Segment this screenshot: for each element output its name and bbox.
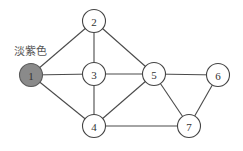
node-label: 5 [151,69,157,81]
edge-1-4 [31,75,94,126]
node-label: 1 [28,70,34,82]
node-2: 2 [83,10,106,33]
node-4: 4 [83,115,106,138]
node-label: 2 [91,16,97,28]
edges [31,21,218,126]
node-label: 4 [91,121,97,133]
node-label: 3 [91,69,97,81]
node-7: 7 [178,115,201,138]
node-5: 5 [143,63,166,86]
node-label: 7 [186,121,192,133]
graph-canvas: 1234567 [0,0,243,151]
node-1: 1 [20,64,43,87]
node-6: 6 [207,64,230,87]
node-3: 3 [83,63,106,86]
node-label: 6 [215,70,221,82]
